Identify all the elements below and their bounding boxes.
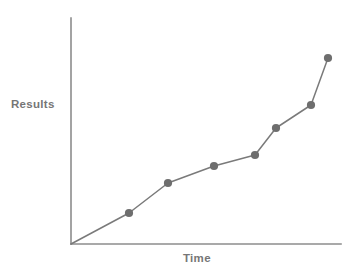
data-series-line (71, 58, 328, 244)
x-axis-label: Time (183, 252, 211, 264)
chart-plot-area (0, 0, 346, 277)
data-point-marker (272, 124, 280, 132)
data-point-marker (210, 162, 218, 170)
data-point-marker (164, 179, 172, 187)
data-point-marker (125, 209, 133, 217)
y-axis-label: Results (11, 98, 55, 110)
data-point-marker (251, 151, 259, 159)
chart-axes (71, 18, 341, 244)
data-point-marker (307, 101, 315, 109)
line-chart-figure: Results Time (0, 0, 346, 277)
data-point-marker (324, 54, 332, 62)
data-series-group (71, 54, 332, 244)
